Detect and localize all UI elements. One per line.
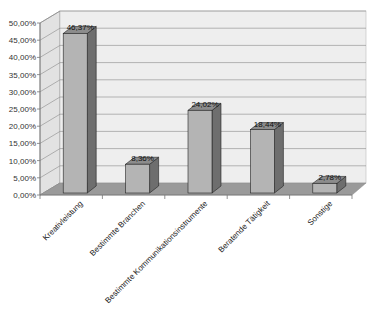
y-tick-label: 5,00% xyxy=(13,174,36,183)
y-tick-label: 35,00% xyxy=(9,71,36,80)
bar-front xyxy=(313,183,337,193)
data-label: 46,37% xyxy=(67,23,94,32)
y-tick-label: 45,00% xyxy=(9,36,36,45)
bar-front xyxy=(126,164,150,193)
y-axis: 0,00%5,00%10,00%15,00%20,00%25,00%30,00%… xyxy=(9,19,40,200)
x-category-label: Kreativleistung xyxy=(41,199,84,242)
x-category-label: Bestimmte Branchen xyxy=(88,199,147,258)
x-category-label: Sonstige xyxy=(306,199,335,228)
y-tick-label: 50,00% xyxy=(9,19,36,28)
y-tick-label: 0,00% xyxy=(13,191,36,200)
bar-front xyxy=(63,33,87,193)
bar-chart: 0,00%5,00%10,00%15,00%20,00%25,00%30,00%… xyxy=(0,0,373,334)
bar-front xyxy=(188,110,212,193)
bar-5: 2,78% xyxy=(313,173,346,193)
bar-front xyxy=(250,130,274,193)
y-tick-label: 30,00% xyxy=(9,88,36,97)
y-tick-label: 20,00% xyxy=(9,122,36,131)
data-label: 2,78% xyxy=(318,173,341,182)
bar-3: 24,02% xyxy=(188,100,221,193)
y-tick-label: 10,00% xyxy=(9,157,36,166)
y-tick-label: 40,00% xyxy=(9,53,36,62)
bar-4: 18,44% xyxy=(250,120,283,193)
data-label: 18,44% xyxy=(254,120,281,129)
x-axis: KreativleistungBestimmte BranchenBestimm… xyxy=(40,195,352,305)
data-label: 8,36% xyxy=(131,154,154,163)
bar-side xyxy=(87,26,96,193)
bar-1: 46,37% xyxy=(63,23,96,193)
x-category-label: Beratende Tätigkeit xyxy=(216,199,272,255)
y-tick-label: 25,00% xyxy=(9,105,36,114)
x-category-label: Bestimmte Kommunikationsinstrumente xyxy=(103,199,209,305)
bar-side xyxy=(274,123,283,193)
bar-side xyxy=(212,103,221,193)
data-label: 24,02% xyxy=(191,100,218,109)
bar-2: 8,36% xyxy=(126,154,159,193)
y-tick-label: 15,00% xyxy=(9,139,36,148)
